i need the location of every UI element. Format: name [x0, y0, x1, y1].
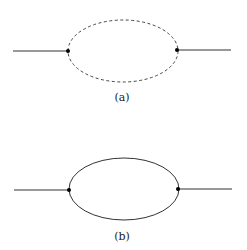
vertex-right-b	[176, 187, 180, 191]
diagram-a-caption: (a)	[102, 92, 142, 104]
solid-loop-b	[69, 158, 179, 220]
dashed-loop-a	[68, 20, 178, 82]
vertex-right-a	[175, 48, 179, 52]
vertex-left-b	[67, 188, 71, 192]
diagram-b	[14, 158, 232, 220]
diagram-b-caption: (b)	[102, 231, 142, 243]
vertex-left-a	[66, 49, 70, 53]
diagram-a	[13, 20, 231, 82]
feynman-diagrams-canvas	[0, 0, 247, 250]
